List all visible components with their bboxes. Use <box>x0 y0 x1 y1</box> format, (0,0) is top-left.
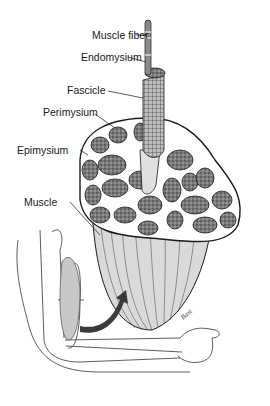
label-endomysium: Endomysium <box>81 51 142 63</box>
label-perimysium: Perimysium <box>43 106 98 118</box>
label-fascicle: Fascicle <box>67 84 106 96</box>
label-muscle: Muscle <box>24 196 57 208</box>
signature: Bast <box>179 307 194 322</box>
muscle-anatomy-diagram: Bast Muscle fiber Endomysium Fascicle Pe… <box>0 0 270 406</box>
fascicle-bundle <box>143 75 164 158</box>
biceps <box>60 257 80 340</box>
label-epimysium: Epimysium <box>17 144 68 156</box>
label-muscle-fiber: Muscle fiber <box>92 29 149 41</box>
